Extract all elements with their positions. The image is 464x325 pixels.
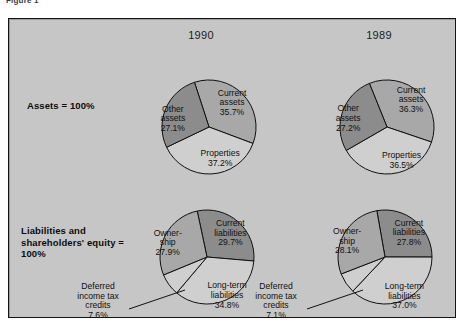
column-header-1989: 1989 [344,29,414,41]
row-label-assets: Assets = 100% [27,100,123,112]
figure-caption: Figure 1 [6,0,126,8]
pie-svg [335,207,435,307]
pie-svg [159,77,259,177]
pie-svg [337,77,437,177]
pie-chart-liabilities-1989: Current liabilities 27.8%Long-term liabi… [335,207,435,307]
column-header-1990: 1990 [166,29,236,41]
pie-chart-assets-1989: Current assets 36.3%Properties 36.5%Othe… [337,77,437,177]
chart-panel: 1990 1989 Assets = 100% Liabilities and … [8,18,456,318]
pie-chart-assets-1990: Current assets 35.7%Properties 37.2%Othe… [159,77,259,177]
callout-deferred-income-tax-credits-1990: Deferred income tax credits 7.6% [61,282,135,320]
callout-deferred-income-tax-credits-1989: Deferred income tax credits 7.1% [239,282,313,320]
pie-slice [377,210,432,257]
row-label-liabilities: Liabilities and shareholders' equity = 1… [21,225,127,260]
